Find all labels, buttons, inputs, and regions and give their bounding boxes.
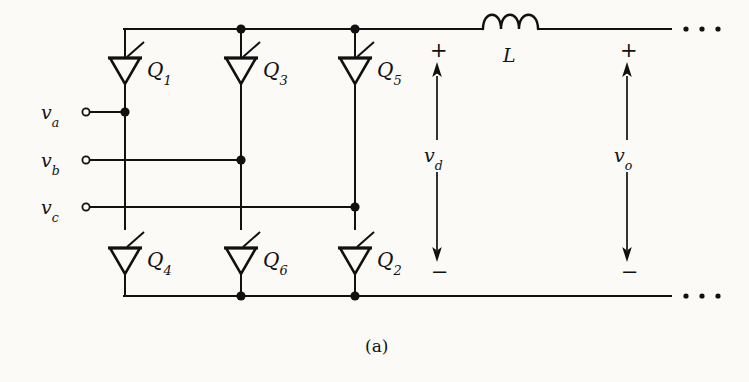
thyristor-label-Q5: Q5 [377, 60, 402, 84]
inductor-coil [483, 15, 538, 29]
thyristor-label-Q6: Q6 [263, 250, 288, 274]
junction-dot [236, 155, 245, 164]
vo-minus-sign: − [621, 262, 639, 283]
voltage-label-vd: vd [424, 146, 443, 169]
thyristor-label-Q3: Q3 [263, 60, 288, 84]
vo-plus-sign: + [620, 40, 638, 61]
figure-caption: (a) [365, 338, 388, 355]
junction-dot [350, 202, 359, 211]
terminal-label-vb: vb [41, 151, 60, 174]
thyristor-label-Q1: Q1 [147, 60, 172, 84]
bottom-ellipsis [683, 293, 720, 298]
terminal-node-vc[interactable] [82, 203, 89, 210]
input-terminal-nodes [82, 108, 89, 210]
junction-dot [120, 107, 129, 116]
thyristor-Q6[interactable] [224, 232, 260, 274]
terminal-node-vb[interactable] [82, 156, 89, 163]
junction-dot [350, 24, 359, 33]
figure-canvas: Q1 Q3 Q5 Q4 Q6 Q2 va vb vc L + vd − + vo… [0, 0, 749, 382]
thyristor-Q4[interactable] [108, 232, 144, 274]
junction-dot [236, 291, 245, 300]
inductor-label: L [503, 46, 516, 65]
top-ellipsis [683, 26, 720, 31]
terminal-label-va: va [41, 103, 59, 126]
terminal-label-vc: vc [41, 198, 59, 221]
terminal-node-va[interactable] [82, 108, 89, 115]
vd-minus-sign: − [431, 262, 449, 283]
junction-dot [236, 24, 245, 33]
thyristor-label-Q4: Q4 [147, 250, 172, 274]
junction-dot [350, 291, 359, 300]
vd-plus-sign: + [430, 40, 448, 61]
voltage-label-vo: vo [614, 146, 632, 169]
thyristor-label-Q2: Q2 [377, 250, 402, 274]
thyristor-Q2[interactable] [338, 232, 374, 274]
